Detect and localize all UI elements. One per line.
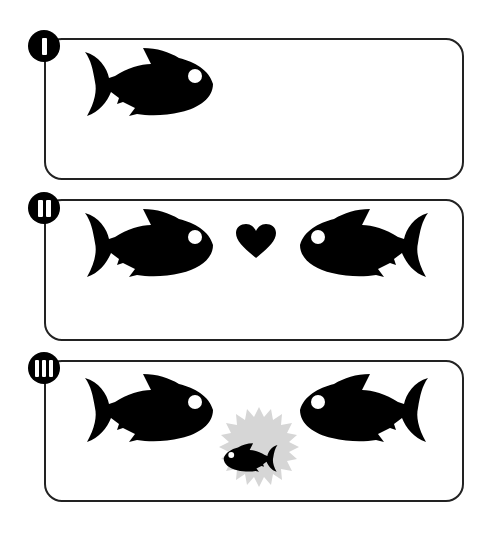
stage-1-badge (28, 30, 60, 62)
fish-icon (85, 46, 215, 118)
fish-icon (298, 372, 428, 444)
baby-fish-icon (223, 442, 278, 472)
heart-icon (236, 224, 276, 260)
fish-icon (85, 207, 215, 279)
stage-2-badge (28, 192, 60, 224)
fish-icon (298, 207, 428, 279)
stage-3-badge (28, 352, 60, 384)
fish-icon (85, 372, 215, 444)
